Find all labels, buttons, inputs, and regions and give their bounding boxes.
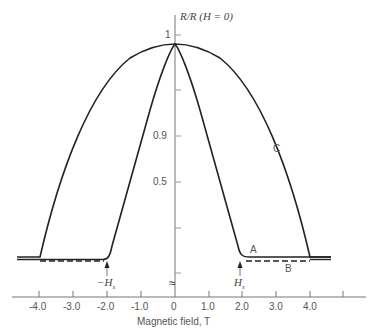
curve-a — [17, 44, 331, 260]
neg-hs-arrow — [105, 261, 110, 276]
x-tick: -1.0 — [131, 301, 148, 312]
curve-c — [17, 44, 331, 257]
x-tick: -3.0 — [63, 301, 80, 312]
y-axis-label: R/R (H = 0) — [180, 10, 233, 22]
x-tick: 4.0 — [303, 301, 317, 312]
neg-hs-label: −Hs — [97, 276, 115, 291]
axis-break-symbol: ≈ — [169, 276, 176, 290]
x-tick: 1.0 — [201, 301, 215, 312]
x-tick: -4.0 — [29, 301, 46, 312]
figure: R/R (H = 0) 1 0.9 0.5 ≈ C A B −Hs Hs -4.… — [0, 0, 373, 335]
x-tick: 0 — [171, 301, 177, 312]
x-tick: 3.0 — [269, 301, 283, 312]
x-tick: -2.0 — [97, 301, 114, 312]
plot-area — [0, 0, 373, 335]
y-tick-0.5: 0.5 — [153, 176, 167, 187]
pos-hs-arrow — [238, 261, 243, 276]
y-tick-0.9: 0.9 — [153, 130, 167, 141]
y-tick-1: 1 — [165, 29, 171, 40]
label-c: C — [273, 143, 280, 154]
x-tick: 2.0 — [235, 301, 249, 312]
label-a: A — [250, 244, 257, 255]
pos-hs-label: Hs — [234, 276, 245, 291]
label-b: B — [285, 263, 292, 274]
x-axis-label: Magnetic field, T — [137, 316, 210, 327]
